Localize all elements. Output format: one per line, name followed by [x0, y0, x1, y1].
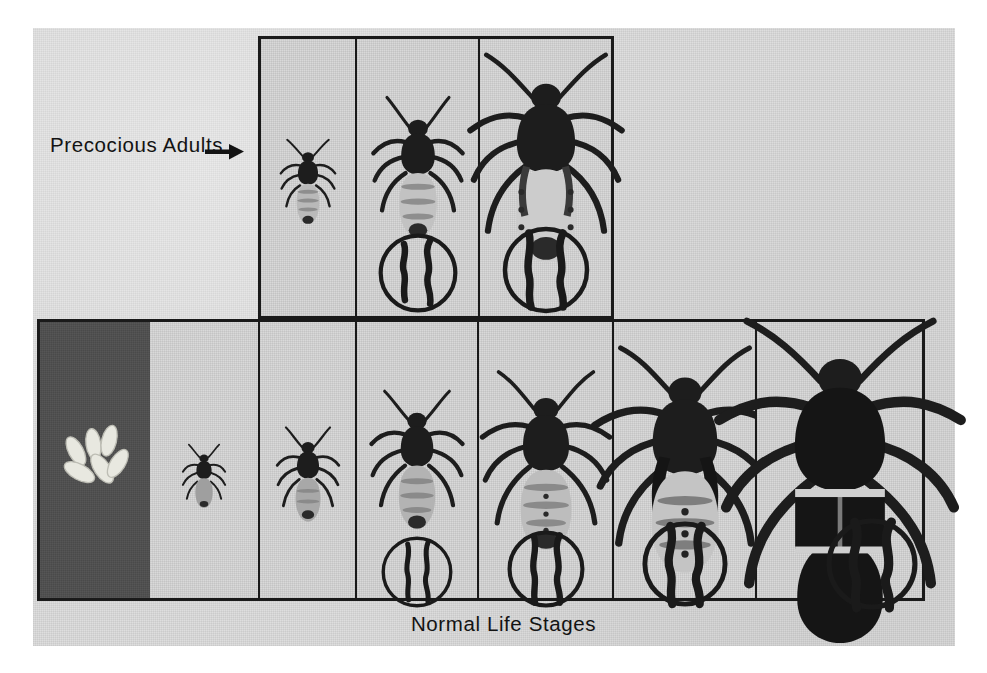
- panel-instar-1: [150, 322, 258, 598]
- panel-precocious-3: [478, 39, 611, 316]
- circle-detail-icon: [379, 534, 455, 610]
- panel-instar-3: [355, 322, 477, 598]
- normal-life-stages-row: [37, 319, 925, 601]
- figure-plate: Precocious Adults: [0, 0, 987, 673]
- circle-detail-icon: [501, 225, 591, 315]
- circle-detail-icon: [376, 231, 460, 315]
- precocious-adults-label: Precocious Adults: [50, 133, 223, 157]
- panel-eggs: [40, 322, 150, 598]
- normal-life-stages-caption: Normal Life Stages: [0, 612, 987, 636]
- panel-instar-4: [477, 322, 612, 598]
- specimen-bug: [276, 135, 340, 235]
- right-arrow-icon: [205, 143, 245, 161]
- panel-precocious-1: [261, 39, 355, 316]
- specimen-bug: [178, 440, 231, 523]
- specimen-bug: [368, 95, 467, 250]
- panel-instar-2: [258, 322, 355, 598]
- circle-detail-icon: [505, 528, 587, 610]
- panel-adult: [755, 322, 922, 598]
- specimen-bug: [369, 390, 465, 540]
- precocious-adults-row: [258, 36, 614, 319]
- specimen-bug: [272, 424, 342, 534]
- circle-detail-icon: [826, 518, 918, 610]
- egg-cluster: [48, 418, 144, 514]
- panel-precocious-2: [355, 39, 478, 316]
- circle-detail-icon: [641, 520, 729, 608]
